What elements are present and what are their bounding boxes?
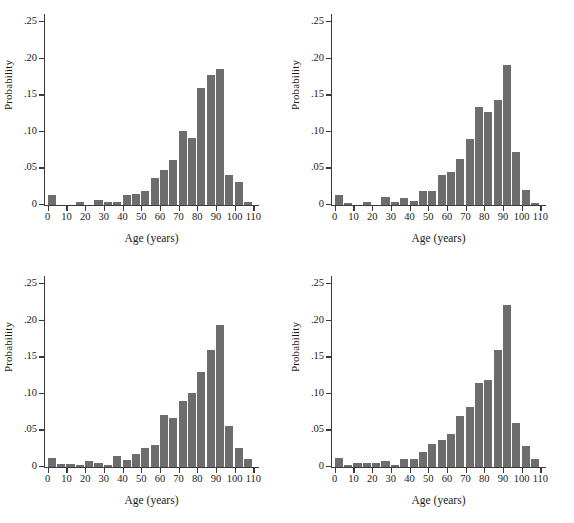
histogram-bar [428,191,436,205]
histogram-bar [225,426,233,466]
histogram-bar [456,416,464,466]
x-axis-tick-label: 50 [136,474,147,485]
histogram-bar [503,305,511,467]
histogram-bar [512,423,520,467]
y-axis-tick-label: 0 [32,461,37,472]
histogram-bar [428,444,436,467]
plot-area: 0.05.10.15.20.25010203040506070809010011… [44,276,259,468]
bar-series [44,15,259,205]
histogram-bar [400,198,408,205]
y-axis-tick-label: .10 [24,126,37,137]
y-axis-tick-label: 0 [319,461,324,472]
histogram-bar [235,448,243,467]
x-axis-tick-label: 50 [136,212,147,223]
histogram-bar [447,434,455,466]
x-axis-tick-label: 80 [479,474,490,485]
y-axis-tick-label: .20 [311,315,324,326]
bar-series [331,277,546,467]
x-axis-tick-label: 90 [498,212,509,223]
histogram-bar [85,461,93,467]
y-axis-tick-label: .15 [311,351,324,362]
histogram-bar [207,75,215,205]
histogram-bar [466,139,474,205]
x-axis-tick-label: 60 [155,474,166,485]
x-axis-tick-label: 0 [332,474,337,485]
y-axis-tick-label: .25 [311,16,324,27]
y-axis-tick-label: .05 [24,162,37,173]
x-axis-tick-label: 20 [80,474,91,485]
histogram-bar [216,69,224,204]
histogram-bar [244,202,252,205]
histogram-bar [344,203,352,204]
x-axis-tick-label: 100 [227,474,243,485]
x-axis-tick-label: 80 [192,474,203,485]
bar-series [331,15,546,205]
histogram-bar [132,194,140,205]
histogram-bar [410,459,418,466]
x-axis-tick-label: 110 [533,212,548,223]
histogram-bar [335,195,343,205]
histogram-bar [104,202,112,204]
y-axis-tick-label: .10 [24,388,37,399]
histogram-bar [531,459,539,466]
bar-series [44,277,259,467]
x-axis-tick-label: 40 [117,474,128,485]
y-axis-tick-label: .25 [24,278,37,289]
x-axis-label: Age (years) [44,494,259,506]
histogram-bar [494,100,502,205]
histogram-bar [225,175,233,205]
histogram-bar [410,201,418,205]
histogram-bar [475,383,483,466]
histogram-bar [372,463,380,467]
histogram-bar [123,460,131,467]
histogram-bar [76,465,84,466]
histogram-panel-bottom-right: Probability0.05.10.15.20.250102030405060… [287,262,574,523]
y-axis-label: Probability [2,60,14,110]
histogram-panel-bottom-left: Probability0.05.10.15.20.250102030405060… [0,262,287,523]
histogram-bar [76,202,84,204]
histogram-bar [419,191,427,205]
histogram-figure: Probability0.05.10.15.20.250102030405060… [0,0,574,523]
histogram-bar [484,112,492,205]
x-axis-tick-label: 110 [246,474,261,485]
y-axis-tick-label: .15 [311,89,324,100]
y-axis-label: Probability [289,322,301,372]
histogram-bar [113,202,121,204]
y-axis-tick-label: 0 [319,199,324,210]
x-axis-tick-label: 90 [211,212,222,223]
histogram-bar [494,350,502,467]
histogram-bar [160,170,168,204]
x-axis-tick-label: 70 [460,212,471,223]
plot-area: 0.05.10.15.20.25010203040506070809010011… [44,14,259,206]
y-axis-label: Probability [289,60,301,110]
histogram-bar [141,448,149,466]
x-axis-tick-label: 100 [514,474,530,485]
x-axis-tick-label: 110 [533,474,548,485]
x-axis-tick-label: 10 [348,212,359,223]
histogram-panel-top-left: Probability0.05.10.15.20.250102030405060… [0,0,287,261]
y-axis-tick-label: .05 [311,162,324,173]
x-axis-tick-label: 30 [99,212,110,223]
x-axis-tick-label: 10 [348,474,359,485]
x-axis-tick-label: 30 [386,212,397,223]
histogram-bar [57,464,65,466]
histogram-bar [169,418,177,466]
x-axis-tick-label: 0 [332,212,337,223]
y-axis-tick-label: .05 [24,424,37,435]
x-axis-tick-label: 60 [442,474,453,485]
histogram-bar [94,200,102,204]
histogram-bar [400,459,408,467]
x-axis-tick-label: 100 [514,212,530,223]
y-axis-tick-label: .10 [311,126,324,137]
histogram-bar [188,393,196,467]
histogram-bar [466,407,474,466]
histogram-bar [113,456,121,467]
x-axis-tick-label: 0 [45,474,50,485]
x-axis-tick-label: 10 [61,474,72,485]
x-axis-tick-label: 50 [423,474,434,485]
histogram-bar [169,160,177,205]
histogram-bar [381,461,389,467]
histogram-bar [438,440,446,466]
x-axis-tick-label: 60 [155,212,166,223]
x-axis-tick-label: 20 [367,212,378,223]
